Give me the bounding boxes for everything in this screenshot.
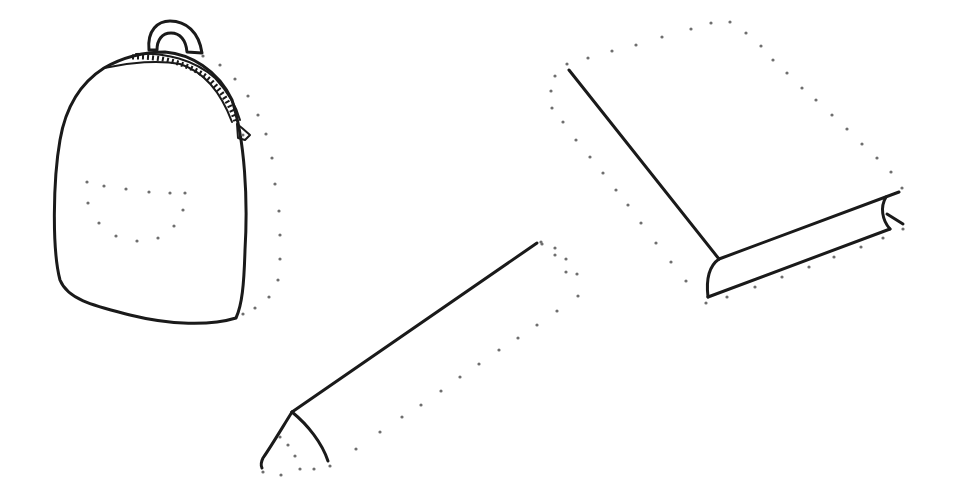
pencil-dotted-body [261,240,579,476]
backpack-zipper-teeth [132,57,236,122]
book-drawing [540,20,904,304]
backpack-dotted-side [201,54,281,315]
backpack-drawing [54,21,281,323]
worksheet-canvas [0,0,960,499]
book-spine-top [719,192,899,259]
book-spine-front-curve [707,259,719,297]
book-spine-bottom [708,229,890,297]
book-page-edge [887,214,903,224]
pencil-drawing [261,240,579,476]
pencil-tip-right [292,412,328,461]
backpack-handle [149,21,202,53]
book-left-edge [569,70,719,259]
backpack-dotted-pocket [85,180,186,242]
pencil-tip-left [261,412,292,468]
backpack-zipper-inner [104,62,232,122]
pencil-top-edge [292,243,537,412]
book-dotted-cover [540,20,904,304]
